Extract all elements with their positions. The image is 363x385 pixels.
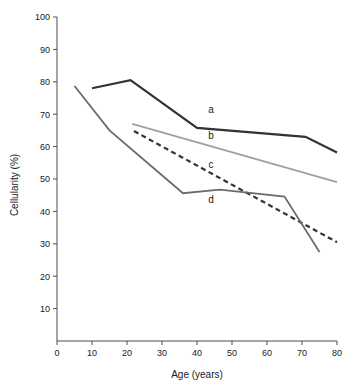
y-tick-label: 70 <box>40 110 50 120</box>
y-tick-label: 30 <box>40 239 50 249</box>
y-tick-label: 50 <box>40 174 50 184</box>
x-tick-label: 40 <box>192 348 202 358</box>
x-tick-label: 80 <box>332 348 342 358</box>
y-tick-label: 90 <box>40 45 50 55</box>
series-label-d: d <box>208 194 214 205</box>
y-tick-label: 60 <box>40 142 50 152</box>
x-tick-label: 30 <box>157 348 167 358</box>
x-tick-label: 60 <box>262 348 272 358</box>
series-label-c: c <box>209 159 214 170</box>
x-tick-label: 20 <box>122 348 132 358</box>
x-tick-label: 10 <box>87 348 97 358</box>
cellularity-vs-age-line-chart: 102030405060708090100 01020304050607080 … <box>0 0 363 385</box>
y-tick-label: 10 <box>40 304 50 314</box>
chart-container: 102030405060708090100 01020304050607080 … <box>0 0 363 385</box>
y-tick-label: 40 <box>40 207 50 217</box>
y-tick-label: 100 <box>35 12 50 22</box>
series-label-a: a <box>208 104 214 115</box>
series-label-b: b <box>208 130 214 141</box>
y-tick-label: 20 <box>40 272 50 282</box>
x-tick-label: 70 <box>297 348 307 358</box>
y-axis-title: Cellularity (%) <box>9 154 20 216</box>
x-tick-label: 50 <box>227 348 237 358</box>
x-axis-title: Age (years) <box>171 369 223 380</box>
x-tick-label: 0 <box>54 348 59 358</box>
y-tick-label: 80 <box>40 77 50 87</box>
